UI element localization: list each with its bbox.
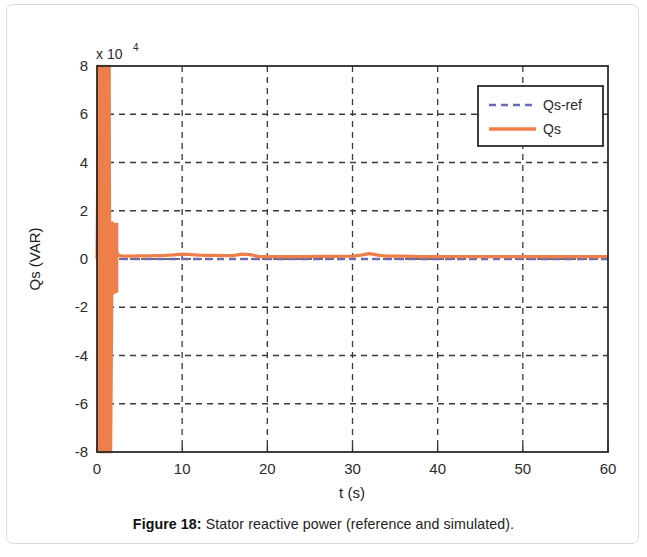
x-tick-label: 50 xyxy=(514,460,531,477)
figure-caption-label: Figure 18: xyxy=(133,516,202,532)
chart-plot-area: 0102030405060 -8-6-4-202468 x 10 4 t (s)… xyxy=(0,0,647,515)
x-tick-label: 60 xyxy=(600,460,617,477)
x-tick-label: 0 xyxy=(93,460,101,477)
y-axis-multiplier-base: x 10 xyxy=(96,46,123,62)
y-tick-label: -4 xyxy=(75,347,88,364)
x-tick-label: 40 xyxy=(429,460,446,477)
x-tick-label: 10 xyxy=(174,460,191,477)
y-tick-label: 0 xyxy=(80,250,88,267)
y-tick-label: -2 xyxy=(75,298,88,315)
y-tick-label: 4 xyxy=(80,154,88,171)
y-tick-label: 2 xyxy=(80,202,88,219)
figure-container: 0102030405060 -8-6-4-202468 x 10 4 t (s)… xyxy=(0,0,647,557)
y-axis-multiplier-exponent: 4 xyxy=(133,42,139,53)
x-tick-label: 30 xyxy=(344,460,361,477)
y-tick-label: -6 xyxy=(75,395,88,412)
y-tick-label: 6 xyxy=(80,105,88,122)
x-tick-label: 20 xyxy=(259,460,276,477)
x-axis-title: t (s) xyxy=(339,484,365,501)
legend-box xyxy=(478,86,603,146)
legend-label-qs-ref: Qs-ref xyxy=(543,97,582,113)
y-axis-title: Qs (VAR) xyxy=(26,227,43,290)
figure-caption: Figure 18: Stator reactive power (refere… xyxy=(0,516,647,532)
figure-caption-text: Stator reactive power (reference and sim… xyxy=(202,516,514,532)
y-tick-label: 8 xyxy=(80,57,88,74)
legend-label-qs: Qs xyxy=(543,121,561,137)
x-tick-labels: 0102030405060 xyxy=(93,460,617,477)
y-tick-labels: -8-6-4-202468 xyxy=(75,57,88,460)
y-axis-multiplier: x 10 4 xyxy=(96,42,139,62)
y-tick-label: -8 xyxy=(75,443,88,460)
chart-legend[interactable]: Qs-ref Qs xyxy=(478,86,603,146)
chart-svg: 0102030405060 -8-6-4-202468 x 10 4 t (s)… xyxy=(0,0,647,515)
